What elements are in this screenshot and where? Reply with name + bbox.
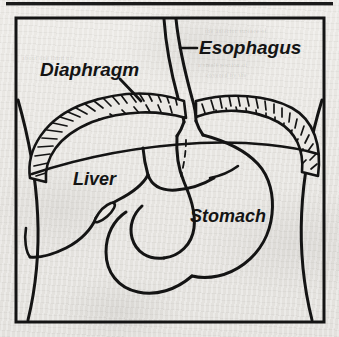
figure-page: the anterior surface of a small portion … — [0, 0, 339, 337]
esophagus-cardia-right — [196, 121, 203, 135]
gallbladder — [95, 203, 115, 223]
label-esophagus: Esophagus — [199, 37, 301, 58]
stomach-lesser-curvature — [164, 136, 194, 258]
label-liver: Liver — [73, 169, 117, 189]
label-diaphragm: Diaphragm — [40, 59, 139, 80]
stomach-inner-fold — [210, 166, 238, 178]
page-rule — [6, 2, 333, 5]
liver-structure — [25, 148, 214, 257]
label-stomach: Stomach — [190, 206, 266, 226]
esophagus-cardia-left — [177, 122, 184, 136]
anatomy-diagram: Esophagus Diaphragm Liver Stomach — [0, 0, 339, 337]
liver-left-lobe-border — [30, 218, 96, 257]
stomach-antrum — [131, 206, 164, 258]
body-wall-left — [18, 100, 38, 320]
liver-left-tip — [25, 228, 30, 257]
liver-falciform-ligament — [143, 148, 148, 175]
